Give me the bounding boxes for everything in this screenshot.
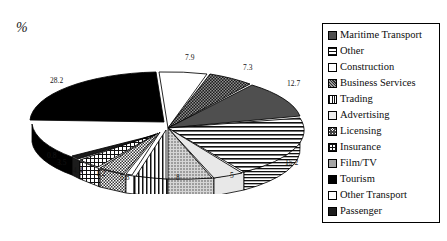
legend-item-label: Other (340, 46, 364, 57)
slice-value-label: 5.8 (120, 174, 129, 182)
legend-swatch-icon (328, 31, 337, 40)
legend-item-tourism[interactable]: Tourism (328, 171, 436, 187)
legend-item-insurance[interactable]: Insurance (328, 139, 436, 155)
legend-item-label: Film/TV (340, 158, 377, 169)
legend-swatch-icon (328, 111, 337, 120)
legend-swatch-icon (328, 127, 337, 136)
legend-item-label: Insurance (340, 142, 381, 153)
legend-item-label: Trading (340, 94, 373, 105)
legend-swatch-icon (328, 143, 337, 152)
slice-value-label: 8 (176, 174, 180, 182)
legend-item-label: Tourism (340, 174, 375, 185)
legend-swatch-icon (328, 175, 337, 184)
slice-value-label: 28.2 (50, 77, 63, 85)
legend-item-maritime-transport[interactable]: Maritime Transport (328, 27, 436, 43)
slice-value-label: 12.7 (287, 80, 300, 88)
slice-value-label: 15.2 (285, 159, 298, 167)
legend-swatch-icon (328, 47, 337, 56)
legend-item-label: Advertising (340, 110, 390, 121)
legend-item-label: Business Services (340, 78, 416, 89)
legend-item-film-tv[interactable]: Film/TV (328, 155, 436, 171)
slice-value-label: 7.9 (185, 54, 194, 62)
legend-item-label: Licensing (340, 126, 381, 137)
legend-swatch-icon (328, 191, 337, 200)
legend-swatch-icon (328, 63, 337, 72)
legend-item-business-services[interactable]: Business Services (328, 75, 436, 91)
legend-item-label: Construction (340, 62, 394, 73)
legend-item-advertising[interactable]: Advertising (328, 107, 436, 123)
legend-swatch-icon (328, 207, 337, 216)
slice-value-label: 4.4 (73, 167, 82, 175)
legend-item-label: Other Transport (340, 190, 407, 201)
slice-value-label: 1.2 (96, 170, 105, 178)
pie-chart-graphic (18, 42, 314, 194)
legend-item-trading[interactable]: Trading (328, 91, 436, 107)
legend-item-label: Maritime Transport (340, 30, 422, 41)
slice-value-label: 0.8 (47, 152, 56, 160)
legend-item-licensing[interactable]: Licensing (328, 123, 436, 139)
legend-item-other[interactable]: Other (328, 43, 436, 59)
chart-legend: Maritime Transport Other Construction Bu… (322, 23, 440, 223)
legend-item-other-transport[interactable]: Other Transport (328, 187, 436, 203)
legend-swatch-icon (328, 79, 337, 88)
legend-item-passenger[interactable]: Passenger (328, 203, 436, 219)
pie-chart-figure: % (0, 0, 447, 241)
legend-item-construction[interactable]: Construction (328, 59, 436, 75)
slice-value-label: 5 (230, 172, 234, 180)
legend-item-label: Passenger (340, 206, 382, 217)
axis-unit-label: % (16, 20, 28, 36)
legend-swatch-icon (328, 159, 337, 168)
slice-value-label: 3.5 (57, 159, 66, 167)
legend-swatch-icon (328, 95, 337, 104)
slice-value-label: 7.3 (243, 64, 252, 72)
